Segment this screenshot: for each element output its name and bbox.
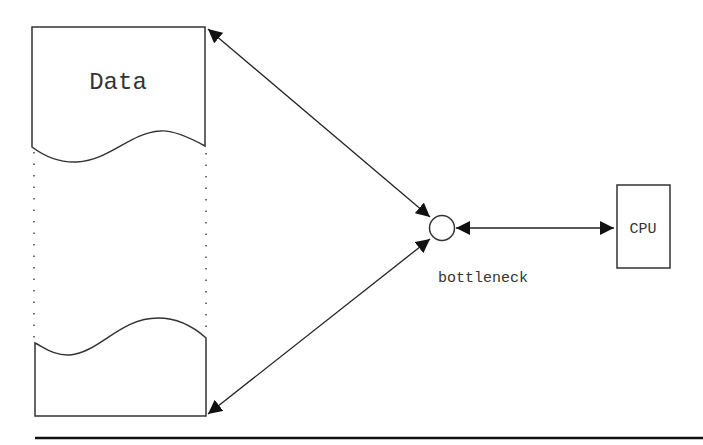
bottleneck-label: bottleneck <box>438 270 528 287</box>
cpu-label: CPU <box>629 221 656 238</box>
data-label: Data <box>89 69 147 96</box>
bottleneck-node <box>430 216 455 241</box>
arrow-data-top-to-bottleneck <box>208 29 430 217</box>
diagram-canvas: Data bottleneck CPU <box>0 0 703 445</box>
arrow-data-bottom-to-bottleneck <box>208 239 430 414</box>
data-block-bottom <box>35 318 206 416</box>
